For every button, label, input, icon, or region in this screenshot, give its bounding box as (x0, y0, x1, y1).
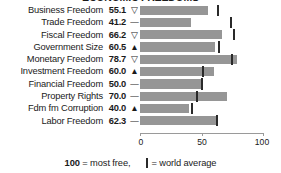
indicator-value: 55.1 (104, 4, 126, 16)
trend-flat-icon: — (129, 16, 140, 28)
world-average-marker (201, 78, 203, 89)
trend-down-icon: ▽ (129, 53, 140, 65)
indicator-label: Trade Freedom (41, 16, 103, 28)
indicator-plot (140, 115, 264, 127)
indicator-bar (140, 18, 191, 27)
trend-flat-icon: — (129, 115, 140, 127)
legend: 100 = most free, = world average (0, 155, 281, 171)
indicator-row: Financial Freedom50.0— (0, 78, 281, 90)
indicator-row: Government Size60.5▲ (0, 41, 281, 53)
indicator-label: Monetary Freedom (27, 53, 103, 65)
indicator-plot (140, 53, 264, 65)
indicator-value: 78.7 (104, 53, 126, 65)
indicator-row: Monetary Freedom78.7▽ (0, 53, 281, 65)
indicator-bar (140, 79, 202, 88)
legend-max-value: 100 (65, 158, 80, 168)
indicator-value: 40.0 (104, 102, 126, 114)
x-axis: 0 50 100 (140, 133, 264, 153)
indicator-plot (140, 16, 264, 28)
indicator-plot (140, 78, 264, 90)
world-average-marker (233, 29, 235, 40)
trend-up-icon: ▲ (129, 102, 140, 114)
trend-down-icon: ▽ (129, 29, 140, 41)
indicator-label: Property Rights (41, 90, 103, 102)
chart-title: ECONOMIC FREEDOMS (0, 0, 281, 3)
indicator-row: Fdm fm Corruption40.0▲ (0, 102, 281, 114)
indicator-plot (140, 90, 264, 102)
world-average-marker (202, 66, 204, 77)
world-average-marker (217, 5, 219, 16)
indicator-plot (140, 102, 264, 114)
indicator-row: Investment Freedom60.0▲ (0, 65, 281, 77)
indicator-value: 41.2 (104, 16, 126, 28)
indicator-label: Government Size (33, 41, 103, 53)
indicator-row: Fiscal Freedom66.2▽ (0, 29, 281, 41)
axis-tick (263, 133, 264, 136)
indicator-label: Labor Freedom (41, 115, 103, 127)
axis-tick-label-50: 50 (197, 137, 207, 147)
indicator-plot (140, 4, 264, 16)
indicator-label: Fdm fm Corruption (28, 102, 103, 114)
indicator-plot (140, 29, 264, 41)
indicator-row: Property Rights70.0— (0, 90, 281, 102)
indicator-bar (140, 104, 189, 113)
indicator-value: 60.0 (104, 65, 126, 77)
indicator-value: 62.3 (104, 115, 126, 127)
indicator-row: Labor Freedom62.3— (0, 115, 281, 127)
world-average-marker (216, 115, 218, 126)
axis-tick (202, 133, 203, 136)
axis-tick-label-100: 100 (255, 137, 269, 147)
trend-flat-icon: — (129, 90, 140, 102)
indicator-row: Trade Freedom41.2— (0, 16, 281, 28)
world-average-marker (231, 54, 233, 65)
indicator-bar (140, 92, 227, 101)
world-average-marker (196, 91, 198, 102)
legend-average-text: = world average (151, 158, 216, 168)
trend-down-icon: ▽ (129, 4, 140, 16)
trend-up-icon: ▲ (129, 65, 140, 77)
world-average-marker (230, 17, 232, 28)
axis-tick-label-0: 0 (139, 137, 144, 147)
indicator-label: Fiscal Freedom (41, 29, 103, 41)
indicator-value: 50.0 (104, 78, 126, 90)
indicator-bar (140, 116, 217, 125)
indicator-label: Investment Freedom (20, 65, 103, 77)
indicator-bar (140, 55, 237, 64)
freedom-indicator-chart: Business Freedom55.1▽Trade Freedom41.2—F… (0, 4, 281, 132)
indicator-value: 70.0 (104, 90, 126, 102)
axis-tick (140, 133, 141, 136)
indicator-bar (140, 42, 215, 51)
trend-up-icon: ▲ (129, 41, 140, 53)
indicator-row: Business Freedom55.1▽ (0, 4, 281, 16)
indicator-plot (140, 65, 264, 77)
indicator-label: Business Freedom (28, 4, 103, 16)
indicator-label: Financial Freedom (29, 78, 103, 90)
world-average-marker (218, 41, 220, 52)
indicator-value: 66.2 (104, 29, 126, 41)
world-average-marker (191, 103, 193, 114)
trend-flat-icon: — (129, 78, 140, 90)
indicator-plot (140, 41, 264, 53)
indicator-bar (140, 30, 222, 39)
legend-max-text: = most free, (82, 158, 130, 168)
world-average-marker-icon (146, 158, 148, 168)
indicator-value: 60.5 (104, 41, 126, 53)
indicator-bar (140, 6, 208, 15)
